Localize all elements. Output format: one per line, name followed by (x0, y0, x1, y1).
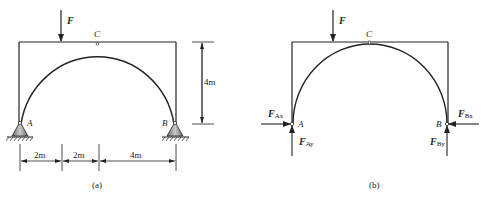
support-label-b: B (162, 118, 168, 128)
arch-curve-a (21, 57, 174, 124)
height-dimension-label: 4m (204, 77, 216, 87)
arch-curve-b (293, 44, 447, 124)
load-label-b: F (338, 15, 346, 26)
caption-a: (a) (92, 180, 102, 190)
reaction-label-fax: FAx (267, 108, 284, 120)
span-dim-1: 2m (34, 150, 46, 160)
reaction-label-fay: FAy (298, 136, 314, 148)
hinge-c-b (369, 41, 371, 44)
frame-b (292, 42, 448, 124)
caption-b: (b) (369, 180, 380, 190)
point-label-b: B (436, 119, 442, 129)
frame-a (19, 42, 176, 124)
reaction-label-fbx: FBx (457, 108, 473, 120)
figure-a: F C A B (6, 10, 219, 190)
hinge-c-a (96, 43, 99, 46)
load-label-a: F (66, 15, 74, 26)
span-dim-3: 4m (130, 150, 142, 160)
three-hinged-arch-diagram: F C A B (0, 0, 481, 214)
hinge-label-b: C (366, 29, 373, 39)
support-label-a: A (26, 118, 33, 128)
pin-b-b (445, 122, 448, 125)
hinge-label-a: C (94, 29, 101, 39)
figure-b: F C A FAx FAy B FBx FBy (b) (261, 10, 479, 190)
pin-a-b (290, 122, 293, 125)
reaction-label-fby: FBy (429, 136, 445, 148)
span-dim-2: 2m (73, 150, 85, 160)
point-label-a: A (297, 119, 304, 129)
